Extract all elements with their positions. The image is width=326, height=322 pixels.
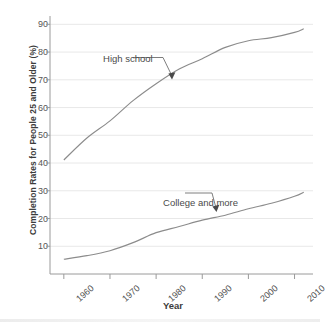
series-line-high-school xyxy=(64,29,304,160)
annotation-label-high-school: High school xyxy=(103,53,153,64)
y-tick-marks xyxy=(46,24,50,246)
x-tick-marks xyxy=(64,274,295,279)
x-axis-title: Year xyxy=(0,300,320,311)
annotation-label-college-and-more: College and more xyxy=(163,197,238,208)
